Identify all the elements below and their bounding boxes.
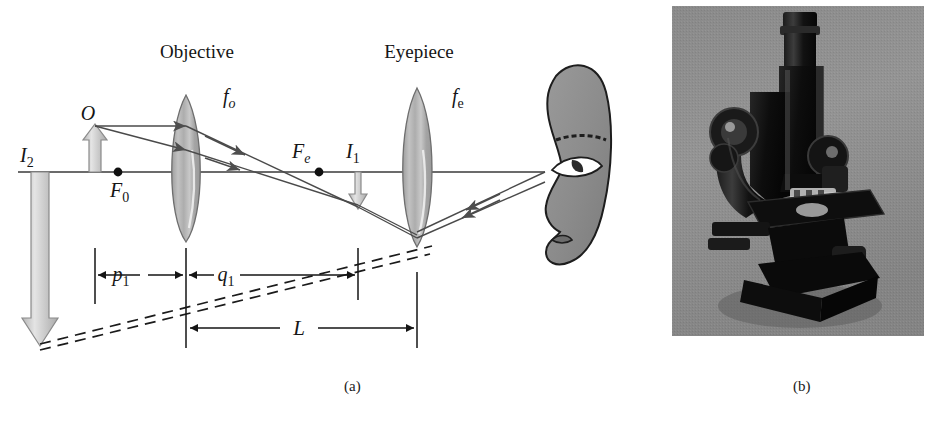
label-p1: p1: [111, 263, 130, 289]
ray-a-midhead: [205, 136, 245, 155]
ray-bundle-eyepiece-to-eye: [417, 172, 545, 238]
microscope-stage-aperture: [796, 203, 828, 217]
panel-b-microscope-photo: [672, 6, 924, 366]
label-I2: I2: [19, 144, 34, 170]
observer-head: [546, 65, 611, 264]
ray-b-midhead: [205, 158, 240, 170]
object-arrow: [83, 124, 107, 172]
ray-through-focus-in: [95, 126, 186, 150]
microscope-eyepiece-tube: [784, 33, 816, 69]
label-L: L: [292, 316, 305, 340]
eyepiece-title: Eyepiece: [384, 41, 454, 62]
ray-out-upper: [417, 172, 545, 232]
caption-panel-a: (a): [344, 378, 361, 395]
microscope-slide-clip: [708, 238, 750, 250]
focal-point-objective-dot: [114, 168, 123, 177]
microscope-side-knob-glint: [826, 146, 838, 158]
virtual-image-dashed-lines: [40, 246, 432, 350]
image-2-arrow: [22, 172, 58, 346]
ray-out-lower: [417, 182, 545, 238]
label-f-objective: fo: [223, 85, 236, 111]
microscope-eyepiece-cap: [783, 12, 817, 28]
focal-point-eyepiece-dot: [315, 168, 324, 177]
ray-bundle-object-to-objective: [95, 126, 186, 150]
microscope-photo-svg: [672, 6, 924, 366]
dimension-p1: p1: [95, 248, 186, 348]
ray-diagram-svg: p1 q1 L: [0, 0, 665, 423]
ray-b-converging: [186, 150, 358, 205]
label-I1: I1: [345, 140, 360, 166]
label-F0: F0: [109, 179, 129, 205]
microscope-tube-sheen: [785, 70, 790, 190]
caption-panel-b: (b): [793, 378, 811, 395]
dashed-line-lower: [40, 254, 430, 350]
objective-lens: [172, 95, 201, 242]
figure-container: p1 q1 L: [0, 0, 931, 423]
label-object-O: O: [81, 102, 95, 124]
microscope-knob-glint: [725, 122, 735, 132]
microscope-slide-holder: [712, 222, 770, 236]
ray-a-converging: [186, 126, 358, 207]
dashed-line-upper: [40, 246, 432, 344]
objective-title: Objective: [160, 41, 234, 62]
microscope-fine-focus-knob: [710, 144, 738, 172]
label-Fe: Fe: [291, 140, 310, 166]
label-f-eyepiece: fe: [452, 85, 464, 111]
eyepiece-lens: [403, 88, 432, 247]
label-q1: q1: [218, 263, 235, 289]
microscope-knob-inner: [721, 119, 747, 145]
panel-a-ray-diagram: p1 q1 L: [0, 0, 665, 423]
